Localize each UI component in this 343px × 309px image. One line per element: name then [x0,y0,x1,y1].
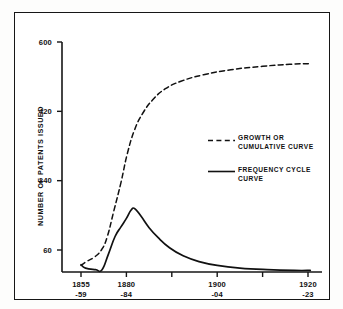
legend-item-growth-line1: GROWTH OR [238,134,314,143]
x-tick-label-line2: -59 [61,290,101,300]
legend-item-frequency: FREQUENCY CYCLE CURVE [238,166,311,183]
x-tick-label: 1900-04 [197,280,237,299]
figure-canvas: NUMBER OF PATENTS ISSUED 60042024060 185… [0,0,343,309]
legend-item-growth: GROWTH OR CUMULATIVE CURVE [238,134,314,151]
y-tick-label: 600 [26,38,52,47]
y-tick-label: 240 [26,176,52,185]
x-tick-label-line1: 1920 [288,280,328,290]
chart-axes [62,42,322,272]
legend-sample-lines [208,141,235,172]
series-line-frequency-cycle [81,208,310,272]
y-tick-label: 420 [26,107,52,116]
legend-item-growth-line2: CUMULATIVE CURVE [238,143,314,152]
x-tick-label: 1920-23 [288,280,328,299]
legend-item-frequency-line1: FREQUENCY CYCLE [238,166,311,175]
x-tick-label-line2: -04 [197,290,237,300]
x-tick-label: 1880-84 [106,280,146,299]
x-tick-label-line1: 1855 [61,280,101,290]
x-tick-label-line1: 1900 [197,280,237,290]
y-tick-label: 60 [26,246,52,255]
x-tick-label-line2: -84 [106,290,146,300]
x-tick-label-line1: 1880 [106,280,146,290]
x-tick-label-line2: -23 [288,290,328,300]
x-tick-label: 1855-59 [61,280,101,299]
legend-item-frequency-line2: CURVE [238,175,311,184]
y-axis-title: NUMBER OF PATENTS ISSUED [36,106,45,226]
